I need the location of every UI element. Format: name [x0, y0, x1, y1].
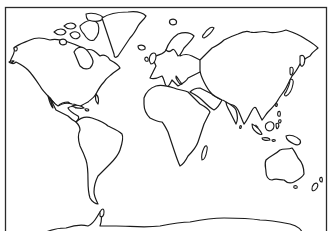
- hispaniola: [85, 109, 89, 111]
- iceland: [138, 45, 145, 50]
- philippines: [279, 120, 282, 123]
- arctic-island: [59, 39, 66, 45]
- alaska-inlet: [14, 47, 17, 51]
- new-zealand-north: [320, 177, 323, 182]
- tasmania: [294, 186, 298, 189]
- sakhalin: [290, 67, 293, 75]
- borneo: [265, 122, 274, 131]
- antarctic-peninsula: [100, 209, 104, 217]
- sulawesi: [276, 123, 279, 129]
- svalbard: [169, 19, 176, 25]
- ireland: [145, 57, 149, 61]
- kamchatka: [300, 55, 305, 66]
- sri-lanka: [240, 126, 242, 129]
- taiwan: [276, 104, 278, 107]
- world-map: [0, 0, 331, 231]
- philippines: [278, 111, 281, 116]
- java: [262, 138, 270, 141]
- arctic-island: [54, 29, 66, 35]
- arctic-island: [64, 23, 76, 29]
- lesser-sunda: [272, 140, 275, 142]
